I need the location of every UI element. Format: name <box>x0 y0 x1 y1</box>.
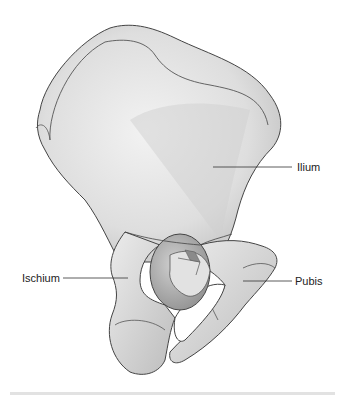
label-pubis: Pubis <box>295 275 323 287</box>
hip-bone-illustration <box>0 0 340 395</box>
label-ischium: Ischium <box>22 272 60 284</box>
label-ilium: Ilium <box>297 161 320 173</box>
